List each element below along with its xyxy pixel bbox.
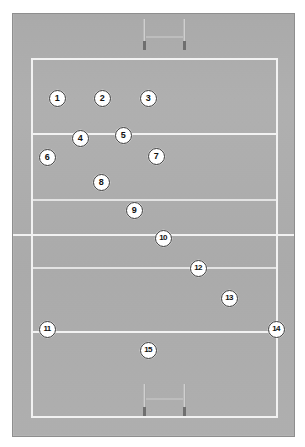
- goal-crossbar: [144, 398, 184, 400]
- halfway-line: [13, 234, 294, 236]
- player-number-label: 2: [100, 94, 105, 103]
- player-number-label: 4: [78, 134, 83, 143]
- player-number-label: 12: [194, 264, 202, 272]
- player-marker-9[interactable]: 9: [126, 202, 143, 219]
- player-marker-2[interactable]: 2: [94, 90, 111, 107]
- goal-crossbar: [144, 36, 184, 38]
- player-marker-10[interactable]: 10: [155, 230, 172, 247]
- player-number-label: 14: [272, 325, 280, 333]
- player-number-label: 9: [132, 206, 137, 215]
- ten-metre-line-top: [31, 199, 278, 201]
- player-marker-4[interactable]: 4: [72, 130, 89, 147]
- player-marker-8[interactable]: 8: [93, 174, 110, 191]
- goal-post-padding-right: [183, 407, 186, 416]
- player-number-label: 13: [225, 294, 233, 302]
- player-marker-14[interactable]: 14: [268, 321, 285, 338]
- player-marker-13[interactable]: 13: [221, 290, 238, 307]
- player-number-label: 15: [144, 346, 152, 354]
- try-line-top: [31, 58, 278, 60]
- touch-line-left: [31, 58, 33, 418]
- diagram-canvas: 123456789101112131415: [0, 0, 305, 447]
- player-number-label: 3: [146, 94, 151, 103]
- player-number-label: 10: [159, 234, 167, 242]
- player-marker-3[interactable]: 3: [140, 90, 157, 107]
- player-number-label: 6: [45, 153, 50, 162]
- player-marker-5[interactable]: 5: [115, 127, 132, 144]
- goal-posts-top: [135, 19, 195, 57]
- player-number-label: 8: [99, 178, 104, 187]
- player-marker-1[interactable]: 1: [49, 90, 66, 107]
- player-marker-7[interactable]: 7: [148, 148, 165, 165]
- player-number-label: 7: [154, 152, 159, 161]
- rugby-pitch-field: 123456789101112131415: [12, 13, 295, 437]
- player-marker-6[interactable]: 6: [39, 149, 56, 166]
- player-number-label: 5: [121, 131, 126, 140]
- touch-line-right: [276, 58, 278, 418]
- goal-post-padding-right: [183, 41, 186, 50]
- goal-post-padding-left: [143, 407, 146, 416]
- twenty-two-line-bottom: [31, 331, 278, 333]
- goal-post-padding-left: [143, 41, 146, 50]
- player-marker-15[interactable]: 15: [140, 342, 157, 359]
- player-number-label: 11: [43, 325, 50, 333]
- player-marker-11[interactable]: 11: [39, 321, 56, 338]
- goal-posts-bottom: [135, 382, 195, 420]
- twenty-two-line-top: [31, 133, 278, 135]
- player-number-label: 1: [55, 94, 60, 103]
- player-marker-12[interactable]: 12: [190, 260, 207, 277]
- ten-metre-line-bottom: [31, 267, 278, 269]
